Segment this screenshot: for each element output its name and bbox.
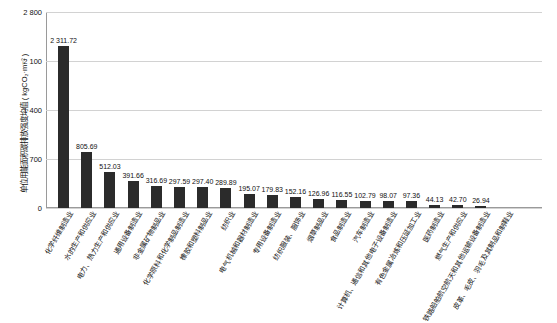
x-axis-label: 汽车制造业	[352, 210, 376, 244]
bar[interactable]	[104, 172, 115, 208]
bar[interactable]	[220, 188, 231, 208]
bar-slot: 126.96	[307, 12, 330, 208]
bar[interactable]	[151, 186, 162, 208]
bar-slot: 297.59	[168, 12, 191, 208]
y-axis-tick-label: 2 800	[23, 8, 46, 17]
bar-slot: 179.83	[261, 12, 284, 208]
bar-value-label: 42.70	[449, 196, 467, 203]
bar-slot: 26.94	[469, 12, 492, 208]
y-axis-tick-label: 0	[38, 204, 46, 213]
y-axis-title: 单位用能面积碳排放强度均值 ( kgCO₂·m⁻² )	[18, 19, 29, 229]
bar[interactable]	[360, 201, 371, 208]
bar-slot: 297.40	[191, 12, 214, 208]
bar-value-label: 391.66	[122, 172, 143, 179]
bar[interactable]	[290, 197, 301, 208]
x-axis-label: 化学原料和化学制品制造业	[142, 210, 190, 286]
bar-value-label: 297.40	[192, 178, 213, 185]
bar-slot: 2 311.72	[52, 12, 75, 208]
bar[interactable]	[406, 201, 417, 208]
bar-value-label: 26.94	[472, 197, 490, 204]
bar-value-label: 44.13	[426, 196, 444, 203]
plot-area: 07001 4002 1002 800 2 311.72805.69512.03…	[46, 12, 542, 208]
bar[interactable]	[313, 199, 324, 208]
bar-value-label: 512.03	[99, 163, 120, 170]
y-axis-tick-label: 1 400	[23, 106, 46, 115]
bar[interactable]	[336, 200, 347, 208]
bar-slot: 116.55	[330, 12, 353, 208]
bar[interactable]	[174, 187, 185, 208]
bar-series: 2 311.72805.69512.03391.66316.69297.5929…	[46, 12, 542, 208]
bar[interactable]	[383, 201, 394, 208]
x-axis-category-labels: 化学纤维制造业水的生产和供应业电力、热力生产和供应业通用设备制造业非金属矿物制品…	[46, 210, 542, 318]
bar[interactable]	[244, 194, 255, 208]
bar-value-label: 102.79	[354, 192, 375, 199]
bar-slot: 512.03	[98, 12, 121, 208]
bar-slot: 44.13	[423, 12, 446, 208]
bar[interactable]	[81, 152, 92, 208]
bar-slot: 391.66	[122, 12, 145, 208]
x-axis-label: 医药制造业	[421, 210, 445, 244]
bar-slot: 42.70	[446, 12, 469, 208]
bar-value-label: 179.83	[262, 186, 283, 193]
gridline	[46, 208, 542, 209]
y-axis-tick-label: 700	[29, 155, 46, 164]
bar[interactable]	[58, 46, 69, 208]
bar-value-label: 316.69	[146, 177, 167, 184]
bar-slot: 195.07	[238, 12, 261, 208]
x-axis-label: 电力、热力生产和供应业	[76, 210, 121, 280]
bar-slot: 102.79	[353, 12, 376, 208]
x-axis-label: 食品制造业	[329, 210, 353, 244]
x-axis-label: 有色金属冶炼和压延加工业	[374, 210, 422, 286]
bar-slot: 805.69	[75, 12, 98, 208]
y-axis-tick-label: 2 100	[23, 57, 46, 66]
bar-value-label: 2 311.72	[50, 37, 77, 44]
bar-value-label: 195.07	[238, 185, 259, 192]
bar[interactable]	[128, 181, 139, 208]
x-axis-label: 纺织业	[220, 210, 237, 232]
bar[interactable]	[197, 187, 208, 208]
bar[interactable]	[475, 206, 486, 208]
bar-slot: 98.07	[377, 12, 400, 208]
bar-value-label: 152.16	[285, 188, 306, 195]
bar-value-label: 97.36	[403, 192, 421, 199]
bar-value-label: 289.89	[215, 179, 236, 186]
bar-value-label: 98.07	[379, 192, 397, 199]
bar-slot: 289.89	[214, 12, 237, 208]
bar[interactable]	[267, 195, 278, 208]
bar-value-label: 116.55	[331, 191, 352, 198]
bar[interactable]	[429, 205, 440, 208]
bar-value-label: 126.96	[308, 190, 329, 197]
bar[interactable]	[452, 205, 463, 208]
bar-value-label: 297.59	[169, 178, 190, 185]
bar-value-label: 805.69	[76, 143, 97, 150]
bar-slot: 316.69	[145, 12, 168, 208]
bar-slot: 152.16	[284, 12, 307, 208]
bar-slot: 97.36	[400, 12, 423, 208]
x-axis-label: 烟草制品业	[305, 210, 329, 244]
